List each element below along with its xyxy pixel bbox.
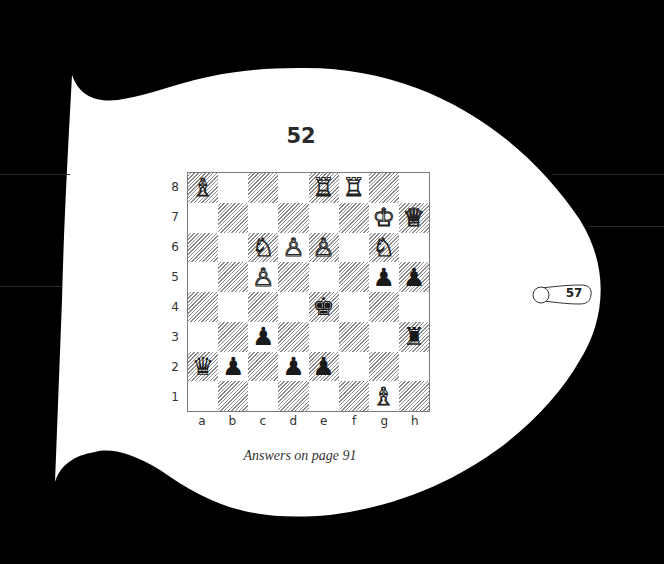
square-f2[interactable] bbox=[339, 352, 369, 382]
black-rook-icon[interactable]: ♜ bbox=[403, 324, 425, 349]
white-queen-icon[interactable]: ♕ bbox=[403, 205, 425, 230]
rank-label-5: 5 bbox=[169, 270, 181, 284]
square-d7[interactable] bbox=[278, 203, 308, 233]
square-c8[interactable] bbox=[248, 173, 278, 203]
square-a2[interactable]: ♛ bbox=[188, 352, 218, 382]
file-label-f: f bbox=[339, 414, 369, 428]
scan-artifact-line bbox=[552, 174, 664, 175]
square-d4[interactable] bbox=[278, 292, 308, 322]
square-a8[interactable]: ♗ bbox=[188, 173, 218, 203]
square-b6[interactable] bbox=[218, 233, 248, 263]
white-pawn-icon[interactable]: ♙ bbox=[282, 235, 304, 260]
white-pawn-icon[interactable]: ♙ bbox=[312, 235, 334, 260]
square-h7[interactable]: ♕ bbox=[399, 203, 429, 233]
square-a1[interactable] bbox=[188, 381, 218, 411]
square-f6[interactable] bbox=[339, 233, 369, 263]
square-b1[interactable] bbox=[218, 381, 248, 411]
file-label-d: d bbox=[278, 414, 308, 428]
scan-artifact-line bbox=[588, 226, 664, 227]
white-knight-icon[interactable]: ♘ bbox=[373, 235, 395, 260]
black-pawn-icon[interactable]: ♟ bbox=[373, 265, 395, 290]
file-label-h: h bbox=[400, 414, 430, 428]
square-e2[interactable]: ♟ bbox=[309, 352, 339, 382]
square-g4[interactable] bbox=[369, 292, 399, 322]
scan-artifact-line bbox=[0, 286, 62, 287]
square-a4[interactable] bbox=[188, 292, 218, 322]
square-g8[interactable] bbox=[369, 173, 399, 203]
black-king-icon[interactable]: ♚ bbox=[312, 294, 334, 319]
square-e1[interactable] bbox=[309, 381, 339, 411]
white-king-icon[interactable]: ♔ bbox=[373, 205, 395, 230]
square-g1[interactable]: ♗ bbox=[369, 381, 399, 411]
square-b8[interactable] bbox=[218, 173, 248, 203]
square-c4[interactable] bbox=[248, 292, 278, 322]
square-d5[interactable] bbox=[278, 262, 308, 292]
square-d1[interactable] bbox=[278, 381, 308, 411]
square-f1[interactable] bbox=[339, 381, 369, 411]
square-b5[interactable] bbox=[218, 262, 248, 292]
square-f5[interactable] bbox=[339, 262, 369, 292]
file-label-a: a bbox=[187, 414, 217, 428]
square-e6[interactable]: ♙ bbox=[309, 233, 339, 263]
black-pawn-icon[interactable]: ♟ bbox=[312, 354, 334, 379]
square-c1[interactable] bbox=[248, 381, 278, 411]
square-g3[interactable] bbox=[369, 322, 399, 352]
square-h5[interactable]: ♟ bbox=[399, 262, 429, 292]
chessboard: ♗♖♖♔♕♘♙♙♘♙♟♟♚♟♜♛♟♟♟♗ bbox=[187, 172, 430, 412]
square-f3[interactable] bbox=[339, 322, 369, 352]
square-h3[interactable]: ♜ bbox=[399, 322, 429, 352]
black-pawn-icon[interactable]: ♟ bbox=[252, 324, 274, 349]
white-bishop-icon[interactable]: ♗ bbox=[192, 175, 214, 200]
square-f4[interactable] bbox=[339, 292, 369, 322]
square-b3[interactable] bbox=[218, 322, 248, 352]
square-c2[interactable] bbox=[248, 352, 278, 382]
square-e5[interactable] bbox=[309, 262, 339, 292]
square-d3[interactable] bbox=[278, 322, 308, 352]
square-g2[interactable] bbox=[369, 352, 399, 382]
square-e7[interactable] bbox=[309, 203, 339, 233]
rank-label-3: 3 bbox=[169, 330, 181, 344]
square-h8[interactable] bbox=[399, 173, 429, 203]
square-b4[interactable] bbox=[218, 292, 248, 322]
scan-artifact-line bbox=[0, 174, 70, 175]
white-rook-icon[interactable]: ♖ bbox=[312, 175, 334, 200]
white-knight-icon[interactable]: ♘ bbox=[252, 235, 274, 260]
file-label-e: e bbox=[309, 414, 339, 428]
rank-label-4: 4 bbox=[169, 300, 181, 314]
square-c3[interactable]: ♟ bbox=[248, 322, 278, 352]
rank-label-7: 7 bbox=[169, 210, 181, 224]
square-a6[interactable] bbox=[188, 233, 218, 263]
square-h2[interactable] bbox=[399, 352, 429, 382]
square-g6[interactable]: ♘ bbox=[369, 233, 399, 263]
black-pawn-icon[interactable]: ♟ bbox=[222, 354, 244, 379]
square-f7[interactable] bbox=[339, 203, 369, 233]
black-queen-icon[interactable]: ♛ bbox=[192, 354, 214, 379]
square-d6[interactable]: ♙ bbox=[278, 233, 308, 263]
square-d8[interactable] bbox=[278, 173, 308, 203]
square-e8[interactable]: ♖ bbox=[309, 173, 339, 203]
square-e3[interactable] bbox=[309, 322, 339, 352]
square-f8[interactable]: ♖ bbox=[339, 173, 369, 203]
square-h1[interactable] bbox=[399, 381, 429, 411]
square-b7[interactable] bbox=[218, 203, 248, 233]
page-tab-label[interactable]: 57 bbox=[561, 286, 587, 300]
square-c5[interactable]: ♙ bbox=[248, 262, 278, 292]
square-a3[interactable] bbox=[188, 322, 218, 352]
white-pawn-icon[interactable]: ♙ bbox=[252, 265, 274, 290]
square-h4[interactable] bbox=[399, 292, 429, 322]
white-bishop-icon[interactable]: ♗ bbox=[373, 384, 395, 409]
square-a5[interactable] bbox=[188, 262, 218, 292]
square-e4[interactable]: ♚ bbox=[309, 292, 339, 322]
black-pawn-icon[interactable]: ♟ bbox=[282, 354, 304, 379]
rank-label-6: 6 bbox=[169, 240, 181, 254]
square-c6[interactable]: ♘ bbox=[248, 233, 278, 263]
square-d2[interactable]: ♟ bbox=[278, 352, 308, 382]
square-c7[interactable] bbox=[248, 203, 278, 233]
square-g7[interactable]: ♔ bbox=[369, 203, 399, 233]
square-h6[interactable] bbox=[399, 233, 429, 263]
white-rook-icon[interactable]: ♖ bbox=[342, 175, 364, 200]
square-a7[interactable] bbox=[188, 203, 218, 233]
square-b2[interactable]: ♟ bbox=[218, 352, 248, 382]
black-pawn-icon[interactable]: ♟ bbox=[403, 265, 425, 290]
square-g5[interactable]: ♟ bbox=[369, 262, 399, 292]
